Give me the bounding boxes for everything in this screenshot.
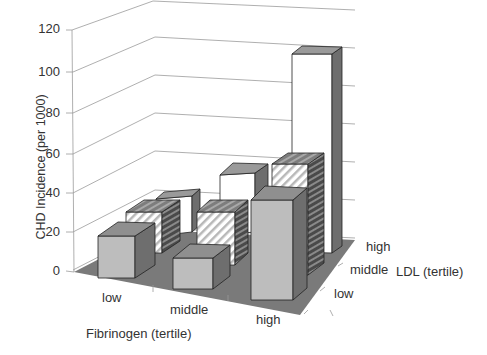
x-tick-middle: middle xyxy=(170,302,208,317)
y-tick-100: 100 xyxy=(30,64,60,79)
y-tick-120: 120 xyxy=(30,21,60,36)
x-tick-high: high xyxy=(256,312,281,327)
y-tick-0: 0 xyxy=(30,263,60,278)
z-tick-high: high xyxy=(366,239,391,254)
y-axis-title: CHD Incidence (per 1000) xyxy=(34,82,48,252)
z-tick-middle: middle xyxy=(350,262,388,277)
z-axis-title: LDL (tertile) xyxy=(396,264,463,279)
x-tick-low: low xyxy=(102,290,122,305)
z-tick-low: low xyxy=(334,286,354,301)
x-axis-title: Fibrinogen (tertile) xyxy=(86,326,192,341)
chart-3d xyxy=(0,0,487,355)
